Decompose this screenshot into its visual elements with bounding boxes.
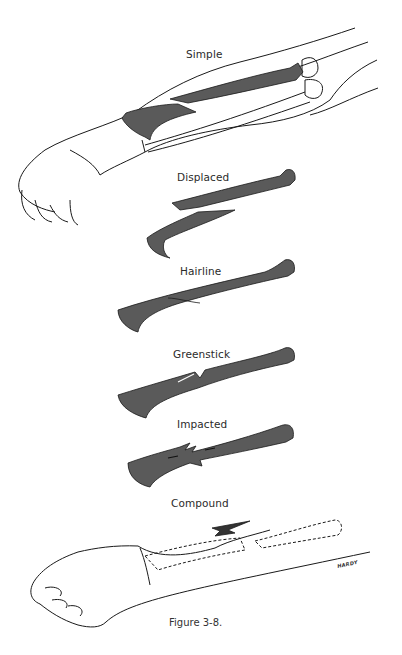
label-simple: Simple xyxy=(186,48,222,60)
simple-radius-bone xyxy=(122,63,303,140)
label-displaced: Displaced xyxy=(177,171,229,183)
impacted-bone xyxy=(128,425,293,487)
figure-caption: Figure 3-8. xyxy=(169,617,222,628)
label-hairline: Hairline xyxy=(180,265,221,277)
label-impacted: Impacted xyxy=(177,418,227,430)
fracture-types-figure: Simple Displaced Hairline Greenstick Imp… xyxy=(0,0,402,655)
compound-arm-illustration xyxy=(31,530,370,627)
compound-dashed-bone xyxy=(145,520,342,570)
compound-protruding-bone xyxy=(212,521,250,536)
label-greenstick: Greenstick xyxy=(173,348,230,360)
fracture-illustration xyxy=(0,0,402,655)
label-compound: Compound xyxy=(171,497,229,509)
